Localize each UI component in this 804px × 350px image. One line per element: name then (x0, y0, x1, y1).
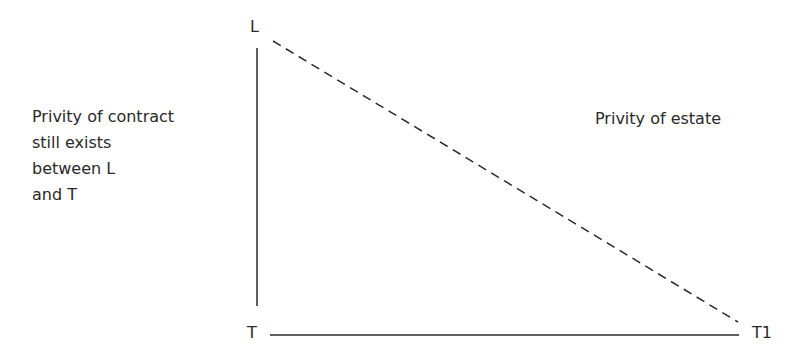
node-label-tenant: T (247, 325, 257, 341)
node-label-assignee: T1 (752, 325, 772, 341)
contract-note-line: Privity of contract (32, 104, 174, 130)
contract-note: Privity of contract still exists between… (32, 104, 174, 208)
node-label-landlord: L (250, 19, 259, 35)
contract-note-line: between L (32, 156, 174, 182)
contract-note-line: and T (32, 182, 174, 208)
estate-line-l-t1 (273, 41, 738, 322)
contract-note-line: still exists (32, 130, 174, 156)
estate-note: Privity of estate (595, 111, 721, 127)
